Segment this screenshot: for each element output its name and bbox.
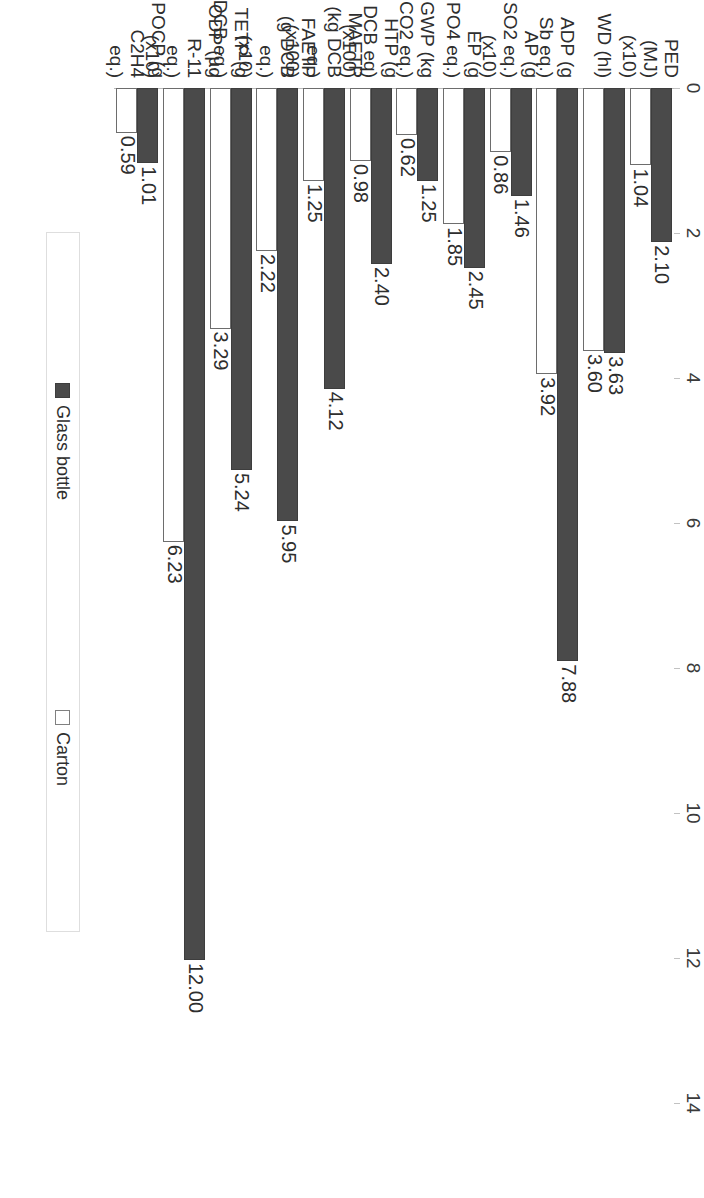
bar-value-label: 1.46	[510, 194, 533, 238]
bar-row[interactable]: 5.95	[277, 88, 298, 1103]
axis-tick-label: 4	[682, 373, 704, 384]
bar-group: 2.400.98	[347, 88, 394, 1103]
bar-row[interactable]: 1.04	[630, 88, 651, 1103]
bar-row[interactable]: 0.59	[116, 88, 137, 1103]
bar-row[interactable]: 0.62	[396, 88, 417, 1103]
bar-glass-bottle[interactable]	[511, 88, 532, 196]
bar-row[interactable]: 1.25	[417, 88, 438, 1103]
bar-row[interactable]: 2.22	[256, 88, 277, 1103]
bar-carton[interactable]	[116, 88, 137, 133]
category-label-line: R-11	[184, 38, 205, 78]
bar-glass-bottle[interactable]	[231, 88, 252, 470]
bar-value-label: 3.29	[209, 327, 232, 371]
bar-value-label: 2.10	[650, 240, 673, 284]
category-label-line: ADP (g	[557, 17, 578, 78]
axis-tick-label: 0	[682, 83, 704, 94]
bar-row[interactable]: 1.46	[511, 88, 532, 1103]
bar-carton[interactable]	[396, 88, 417, 135]
bar-glass-bottle[interactable]	[277, 88, 298, 521]
bar-row[interactable]: 12.00	[184, 88, 205, 1103]
bar-glass-bottle[interactable]	[464, 88, 485, 268]
axis-tick-mark	[674, 958, 680, 959]
bar-carton[interactable]	[630, 88, 651, 165]
bar-glass-bottle[interactable]	[324, 88, 345, 389]
bar-value-label: 1.04	[629, 163, 652, 207]
bar-group: 5.952.22	[254, 88, 301, 1103]
bar-group: 1.460.86	[487, 88, 534, 1103]
bar-row[interactable]: 2.10	[651, 88, 672, 1103]
bar-carton[interactable]	[443, 88, 464, 224]
category-label: EP (gPO4 eq.)	[441, 0, 488, 78]
bar-value-label: 1.25	[302, 179, 325, 223]
bar-value-label: 1.01	[136, 161, 159, 205]
category-label-line: PED	[661, 39, 682, 78]
axis-tick-mark	[674, 378, 680, 379]
bar-row[interactable]: 3.29	[210, 88, 231, 1103]
bar-row[interactable]: 1.01	[137, 88, 158, 1103]
category-label-line: GWP (kg	[417, 1, 438, 78]
bar-row[interactable]: 3.92	[536, 88, 557, 1103]
bar-glass-bottle[interactable]	[184, 88, 205, 960]
bar-row[interactable]: 6.23	[163, 88, 184, 1103]
bar-glass-bottle[interactable]	[557, 88, 578, 661]
bar-row[interactable]: 1.25	[303, 88, 324, 1103]
bar-carton[interactable]	[490, 88, 511, 152]
bar-row[interactable]: 7.88	[557, 88, 578, 1103]
bar-carton[interactable]	[350, 88, 371, 161]
category-label-line: ODP (µg	[205, 4, 226, 78]
bar-value-label: 3.60	[582, 349, 605, 393]
axis-tick-mark	[674, 813, 680, 814]
bar-value-label: 4.12	[323, 387, 346, 431]
category-label-line: TETP (g	[231, 8, 252, 78]
bar-carton[interactable]	[536, 88, 557, 374]
chart-legend: Glass bottleCarton	[46, 232, 80, 932]
bar-row[interactable]: 0.86	[490, 88, 511, 1103]
legend-item-carton[interactable]: Carton	[53, 710, 74, 786]
category-label-line: FAETP	[298, 18, 319, 78]
axis-tick-mark	[674, 523, 680, 524]
legend-label: Glass bottle	[53, 405, 74, 500]
bar-row[interactable]: 4.12	[324, 88, 345, 1103]
category-label: POCP (gC2H4eq.)	[114, 0, 161, 78]
bar-row[interactable]: 3.63	[604, 88, 625, 1103]
bar-value-label: 0.62	[395, 133, 418, 177]
category-label-line: SO2 eq.)	[500, 2, 521, 78]
legend-item-glass-bottle[interactable]: Glass bottle	[53, 383, 74, 500]
category-label-line: EP (g	[464, 31, 485, 78]
category-label-line: (kg DCB	[324, 6, 345, 78]
bar-glass-bottle[interactable]	[651, 88, 672, 242]
bar-value-label: 12.00	[183, 958, 206, 1013]
bar-group: 1.010.59	[114, 88, 161, 1103]
bar-value-label: 0.98	[349, 159, 372, 203]
bar-glass-bottle[interactable]	[604, 88, 625, 353]
category-label-line: (g DCB	[277, 16, 298, 78]
bar-row[interactable]: 2.45	[464, 88, 485, 1103]
axis-tick-mark	[674, 1103, 680, 1104]
category-label-line: HTP (g	[381, 18, 402, 78]
bar-value-label: 1.25	[416, 179, 439, 223]
bar-glass-bottle[interactable]	[137, 88, 158, 163]
bar-value-label: 2.40	[370, 262, 393, 306]
bar-carton[interactable]	[163, 88, 184, 542]
category-label: WD (hl)	[581, 0, 628, 78]
bar-row[interactable]: 3.60	[583, 88, 604, 1103]
bar-carton[interactable]	[303, 88, 324, 181]
axis-tick-label: 10	[682, 802, 704, 823]
bar-row[interactable]: 2.40	[371, 88, 392, 1103]
bar-row[interactable]: 5.24	[231, 88, 252, 1103]
bar-glass-bottle[interactable]	[371, 88, 392, 264]
category-label-line: WD (hl)	[594, 14, 615, 78]
bar-value-label: 7.88	[556, 659, 579, 703]
bar-carton[interactable]	[583, 88, 604, 351]
bar-row[interactable]: 0.98	[350, 88, 371, 1103]
bar-group: 5.243.29	[207, 88, 254, 1103]
bar-carton[interactable]	[210, 88, 231, 329]
bar-row[interactable]: 1.85	[443, 88, 464, 1103]
bar-group: 3.633.60	[581, 88, 628, 1103]
bar-group: 7.883.92	[534, 88, 581, 1103]
bar-value-label: 2.45	[463, 266, 486, 310]
category-label-line: MAETP	[345, 13, 366, 78]
bar-carton[interactable]	[256, 88, 277, 251]
bar-glass-bottle[interactable]	[417, 88, 438, 181]
